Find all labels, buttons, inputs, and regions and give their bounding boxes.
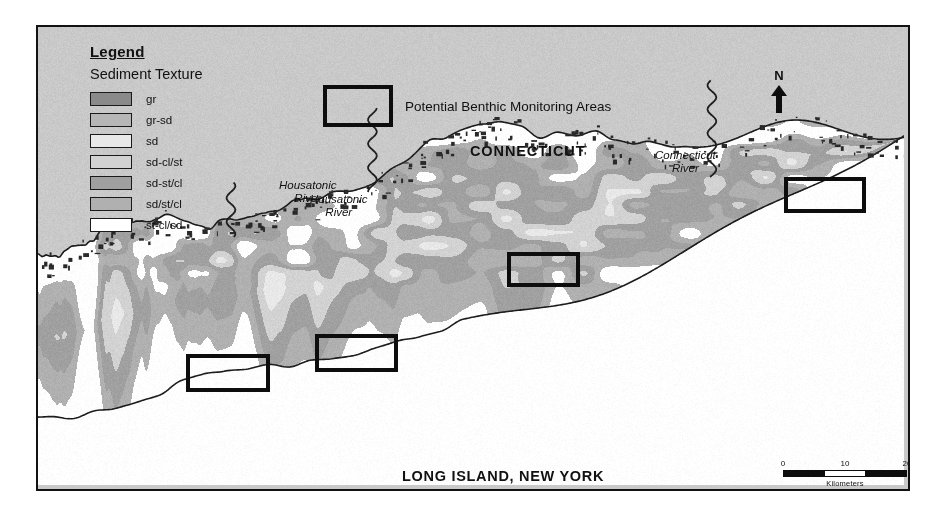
legend-swatch-sd bbox=[90, 134, 132, 148]
map-page: Legend Sediment Texture gr gr-sd sd sd-c… bbox=[0, 0, 942, 511]
north-arrow: N bbox=[766, 69, 792, 113]
legend-swatch-gr-sd bbox=[90, 113, 132, 127]
legend-label-gr: gr bbox=[146, 93, 156, 105]
label-connecticut: CONNECTICUT bbox=[470, 143, 585, 159]
scale-segment-1 bbox=[784, 471, 825, 476]
legend-swatch-gr bbox=[90, 92, 132, 106]
legend-swatch-sd-cl-st bbox=[90, 155, 132, 169]
benthic-monitoring-key: Potential Benthic Monitoring Areas bbox=[323, 85, 611, 127]
legend-swatch-sd-st-cl-alt bbox=[90, 197, 132, 211]
label-housatonic-river-b: HousatonicRiver bbox=[310, 193, 368, 219]
legend-item-gr: gr bbox=[90, 89, 290, 108]
legend-item-sd-cl-st: sd-cl/st bbox=[90, 152, 290, 171]
scale-bar-track bbox=[783, 470, 907, 477]
benthic-key-label: Potential Benthic Monitoring Areas bbox=[405, 99, 611, 114]
scale-bar: 0 10 20 Kilometers bbox=[783, 459, 907, 488]
legend-label-sd-st-cl: sd-st/cl bbox=[146, 177, 182, 189]
legend-item-sd-st-cl-alt: sd/st/cl bbox=[90, 194, 290, 213]
legend-item-sd-st-cl: sd-st/cl bbox=[90, 173, 290, 192]
monitoring-area-1[interactable] bbox=[186, 354, 270, 392]
legend-label-sd-st-cl-alt: sd/st/cl bbox=[146, 198, 182, 210]
scale-tick-20: 20 bbox=[903, 459, 910, 468]
legend: Legend Sediment Texture gr gr-sd sd sd-c… bbox=[90, 43, 290, 236]
legend-label-gr-sd: gr-sd bbox=[146, 114, 172, 126]
monitoring-area-3[interactable] bbox=[507, 252, 580, 287]
label-long-island: LONG ISLAND, NEW YORK bbox=[402, 468, 604, 484]
benthic-key-swatch bbox=[323, 85, 393, 127]
label-connecticut-river: ConnecticutRiver bbox=[655, 149, 716, 175]
legend-title: Legend bbox=[90, 43, 290, 60]
legend-subtitle: Sediment Texture bbox=[90, 66, 290, 82]
monitoring-area-2[interactable] bbox=[315, 334, 398, 372]
legend-label-sd-cl-st: sd-cl/st bbox=[146, 156, 182, 168]
legend-swatch-sd-st-cl bbox=[90, 176, 132, 190]
map-frame: Legend Sediment Texture gr gr-sd sd sd-c… bbox=[36, 25, 910, 491]
scale-segment-2 bbox=[825, 471, 866, 476]
monitoring-area-4[interactable] bbox=[784, 177, 866, 213]
scale-bar-caption: Kilometers bbox=[783, 479, 907, 488]
legend-item-sd: sd bbox=[90, 131, 290, 150]
scale-tick-10: 10 bbox=[841, 459, 850, 468]
legend-label-st-cl-sd: st-cl/sd bbox=[146, 219, 182, 231]
legend-item-st-cl-sd: st-cl/sd bbox=[90, 215, 290, 234]
legend-item-gr-sd: gr-sd bbox=[90, 110, 290, 129]
scale-segment-3 bbox=[865, 471, 906, 476]
legend-label-sd: sd bbox=[146, 135, 158, 147]
scale-bar-ticks: 0 10 20 bbox=[783, 459, 907, 470]
legend-swatch-st-cl-sd bbox=[90, 218, 132, 232]
scale-tick-0: 0 bbox=[781, 459, 785, 468]
north-arrow-icon bbox=[771, 85, 787, 113]
north-arrow-label: N bbox=[766, 69, 792, 82]
